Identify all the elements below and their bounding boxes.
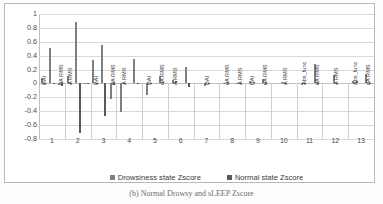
- category-separator: [91, 83, 92, 139]
- category-separator: [116, 83, 117, 139]
- x-axis-group-label: 12: [322, 137, 348, 144]
- gridline: [39, 70, 374, 71]
- bar-normal: [79, 83, 81, 133]
- legend-item[interactable]: Drowsiness state Zscore: [110, 173, 201, 182]
- y-axis-tick-label: -0.2: [25, 93, 37, 100]
- x-axis-group-label: 10: [271, 137, 297, 144]
- x-axis-group-label: 9: [245, 137, 271, 144]
- bar-drowsy: [133, 59, 135, 83]
- bar-drowsy: [110, 83, 112, 99]
- bar-normal: [87, 83, 89, 84]
- y-axis-tick-label: 0.2: [27, 66, 37, 73]
- bar-normal: [188, 83, 190, 86]
- y-axis-tick-label: 1: [33, 10, 37, 17]
- gridline: [39, 42, 374, 43]
- category-separator: [271, 83, 272, 139]
- feature-label: dA RMS: [315, 65, 321, 86]
- category-separator: [168, 83, 169, 139]
- gridline: [39, 125, 374, 126]
- feature-label: A RMS: [283, 68, 289, 85]
- y-axis-tick-label: -0.6: [25, 121, 37, 128]
- feature-label: dA RMS: [366, 65, 372, 86]
- bar-normal: [104, 83, 106, 116]
- feature-label: A RMS: [68, 68, 74, 85]
- feature-label: dA RMS: [111, 65, 117, 86]
- category-separator: [194, 83, 195, 139]
- gridline: [39, 14, 374, 15]
- feature-label: BAI: [42, 76, 48, 85]
- x-axis-group-label: 13: [348, 137, 374, 144]
- y-axis-tick-label: -0.4: [25, 107, 37, 114]
- x-axis-group-labels: 12345678910111213: [39, 135, 374, 149]
- gridline: [39, 97, 374, 98]
- bar-drowsy: [146, 83, 148, 94]
- feature-label: Abs_func: [302, 62, 308, 85]
- feature-label: dA RMS: [160, 65, 166, 86]
- legend-swatch-icon: [227, 175, 232, 180]
- bar-drowsy: [49, 48, 51, 83]
- chart-legend: Drowsiness state ZscoreNormal state Zsco…: [39, 170, 374, 184]
- category-separator: [297, 83, 298, 139]
- x-axis-group-label: 4: [116, 137, 142, 144]
- category-separator: [65, 83, 66, 139]
- gridline: [39, 56, 374, 57]
- legend-item[interactable]: Normal state Zscore: [227, 173, 303, 182]
- bar-drowsy: [185, 67, 187, 83]
- figure-container: 10.80.60.40.20-0.2-0.4-0.6-0.8 BAIdA RMS…: [0, 0, 383, 204]
- category-separator: [245, 83, 246, 139]
- feature-label: A RMS: [238, 68, 244, 85]
- gridline: [39, 28, 374, 29]
- legend-swatch-icon: [110, 175, 115, 180]
- x-axis-group-label: 6: [168, 137, 194, 144]
- x-axis-group-label: 7: [194, 137, 220, 144]
- gridline: [39, 111, 374, 112]
- bar-normal: [53, 83, 55, 84]
- feature-label: dA RMS: [225, 65, 231, 86]
- feature-label: A RMS: [122, 68, 128, 85]
- y-axis-tick-label: 0.6: [27, 38, 37, 45]
- feature-label: A RMS: [334, 68, 340, 85]
- x-axis-group-label: 11: [297, 137, 323, 144]
- plot-area: BAIdA RMSA RMSBAIdA RMSA RMSBAIdA RMSA R…: [39, 14, 374, 139]
- feature-label: Abs_func: [353, 62, 359, 85]
- feature-label: BAI: [205, 76, 211, 85]
- feature-label: dA RMS: [263, 65, 269, 86]
- x-axis-group-label: 1: [39, 137, 65, 144]
- bar-normal: [137, 83, 139, 84]
- bar-drowsy: [101, 45, 103, 84]
- y-axis: 10.80.60.40.20-0.2-0.4-0.6-0.8: [11, 14, 37, 139]
- bar-drowsy: [84, 83, 86, 84]
- category-separator: [142, 83, 143, 139]
- y-axis-tick-label: 0.8: [27, 24, 37, 31]
- y-axis-tick-label: 0: [33, 79, 37, 86]
- y-axis-tick-label: -0.8: [25, 135, 37, 142]
- feature-label: BAI: [94, 76, 100, 85]
- chart-plot-frame: 10.80.60.40.20-0.2-0.4-0.6-0.8 BAIdA RMS…: [4, 3, 375, 183]
- x-axis-group-label: 2: [65, 137, 91, 144]
- feature-label: BAI: [250, 76, 256, 85]
- feature-label: A RMS: [173, 68, 179, 85]
- legend-label: Drowsiness state Zscore: [118, 173, 201, 182]
- bar-drowsy: [75, 22, 77, 84]
- x-axis-group-label: 3: [91, 137, 117, 144]
- feature-label: BAI: [147, 76, 153, 85]
- x-axis-group-label: 8: [219, 137, 245, 144]
- feature-label: dA RMS: [59, 65, 65, 86]
- y-axis-line: [39, 14, 40, 139]
- x-axis-group-label: 5: [142, 137, 168, 144]
- bar-drowsy: [120, 83, 122, 111]
- legend-label: Normal state Zscore: [235, 173, 303, 182]
- figure-caption: (b) Normal Drowsy and sLEEP Zscore: [0, 189, 383, 203]
- category-separator: [219, 83, 220, 139]
- category-separator: [348, 83, 349, 139]
- category-separator: [322, 83, 323, 139]
- y-axis-tick-label: 0.4: [27, 52, 37, 59]
